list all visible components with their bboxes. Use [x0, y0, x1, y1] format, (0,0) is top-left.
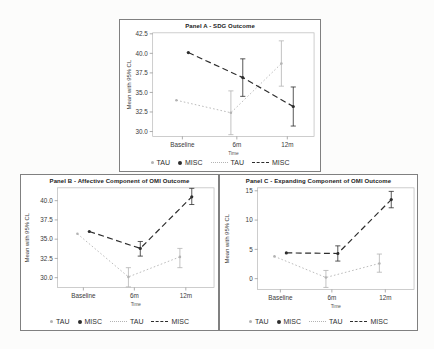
panel-b-legend: TAU MISC TAU MISC [21, 318, 218, 325]
misc-dashed-line-icon [350, 321, 367, 322]
data-point-marker [378, 262, 381, 265]
legend-item-misc-line: MISC [350, 318, 388, 325]
tau-dotted-line-icon [110, 321, 127, 322]
data-point-marker [88, 230, 91, 233]
tau-point-marker-icon [151, 161, 154, 164]
legend-label: MISC [171, 318, 189, 325]
legend-item-misc-line: MISC [151, 318, 189, 325]
y-tick-label: 15 [246, 187, 254, 194]
data-point-marker [230, 111, 233, 114]
legend-item-tau-line: TAU [110, 318, 143, 325]
panel-c-title: Panel C - Expanding Component of OMI Out… [220, 178, 417, 184]
x-axis-title: Time [228, 151, 239, 156]
data-point-marker [175, 99, 178, 102]
legend-label: TAU [56, 318, 69, 325]
y-tick-label: 10 [246, 216, 254, 223]
legend-item-tau-marker: TAU [50, 318, 69, 325]
legend-item-misc-marker: MISC [78, 318, 103, 325]
x-tick-label: 12m [281, 141, 293, 148]
y-axis-title: Mean with 95% CL [126, 59, 132, 109]
panel-b-plot: 30.032.535.037.540.0Baseline6m12mTimeMea… [21, 175, 218, 330]
legend-label: MISC [272, 159, 290, 166]
tau-point-marker-icon [50, 320, 53, 323]
panel-a: 30.032.535.037.540.042.5Baseline6m12mTim… [119, 19, 321, 172]
panel-a-plot: 30.032.535.037.540.042.5Baseline6m12mTim… [120, 20, 320, 171]
y-tick-label: 35.0 [135, 89, 148, 96]
legend-label: TAU [231, 159, 244, 166]
x-tick-label: 12m [379, 294, 391, 301]
x-tick-label: 6m [327, 294, 336, 301]
panel-a-title: Panel A - SDG Outcome [120, 23, 320, 29]
y-tick-label: 0 [249, 275, 253, 282]
legend-label: MISC [370, 318, 388, 325]
data-point-marker [390, 198, 393, 201]
x-axis-title: Time [331, 304, 342, 309]
misc-dashed-line-icon [252, 162, 269, 163]
data-point-marker [179, 256, 182, 259]
tau-dotted-line-icon [309, 321, 326, 322]
legend-item-tau-line: TAU [309, 318, 342, 325]
panel-b-title: Panel B - Affective Component of OMI Out… [21, 178, 218, 184]
panel-c: 051015Baseline6m12mTimeMean with 95% CL … [219, 174, 418, 331]
x-tick-label: 12m [180, 292, 192, 299]
misc-point-marker-icon [178, 161, 182, 165]
figure-page: 30.032.535.037.540.042.5Baseline6m12mTim… [0, 0, 434, 349]
y-tick-label: 42.5 [135, 30, 148, 37]
data-point-marker [325, 276, 328, 279]
data-point-marker [127, 276, 130, 279]
y-tick-label: 32.5 [40, 255, 53, 262]
data-point-marker [292, 105, 295, 108]
y-tick-label: 40.0 [40, 197, 53, 204]
data-point-marker [285, 251, 288, 254]
data-point-marker [139, 247, 142, 250]
legend-label: TAU [130, 318, 143, 325]
y-tick-label: 30.0 [40, 274, 53, 281]
legend-item-tau-marker: TAU [151, 159, 170, 166]
tau-point-marker-icon [249, 320, 252, 323]
y-axis-title: Mean with 95% CL [24, 212, 30, 262]
y-axis-title: Mean with 95% CL [224, 213, 230, 263]
y-tick-label: 40.0 [135, 50, 148, 57]
y-tick-label: 37.5 [40, 216, 53, 223]
y-tick-label: 30.0 [135, 128, 148, 135]
x-tick-label: 6m [232, 141, 241, 148]
misc-point-marker-icon [78, 320, 82, 324]
plot-frame [58, 188, 214, 288]
data-point-marker [336, 252, 339, 255]
legend-item-misc-line: MISC [252, 159, 290, 166]
legend-item-misc-marker: MISC [277, 318, 302, 325]
legend-item-tau-line: TAU [211, 159, 244, 166]
x-tick-label: Baseline [170, 141, 195, 148]
x-axis-title: Time [131, 302, 142, 307]
misc-point-marker-icon [277, 320, 281, 324]
panel-c-plot: 051015Baseline6m12mTimeMean with 95% CL [220, 175, 417, 330]
data-point-marker [273, 255, 276, 258]
legend-label: MISC [85, 318, 103, 325]
y-tick-label: 32.5 [135, 108, 148, 115]
panel-b: 30.032.535.037.540.0Baseline6m12mTimeMea… [20, 174, 219, 331]
tau-dotted-line-icon [211, 162, 228, 163]
legend-item-misc-marker: MISC [178, 159, 203, 166]
data-point-marker [280, 62, 283, 65]
y-tick-label: 35.0 [40, 235, 53, 242]
legend-label: TAU [255, 318, 268, 325]
panel-a-legend: TAU MISC TAU MISC [120, 159, 320, 166]
legend-label: TAU [329, 318, 342, 325]
panel-c-legend: TAU MISC TAU MISC [220, 318, 417, 325]
data-point-marker [190, 195, 193, 198]
x-tick-label: 6m [130, 292, 139, 299]
legend-label: MISC [185, 159, 203, 166]
legend-label: TAU [157, 159, 170, 166]
legend-label: MISC [284, 318, 302, 325]
y-tick-label: 37.5 [135, 69, 148, 76]
plot-frame [153, 33, 314, 137]
data-point-marker [187, 51, 190, 54]
misc-dashed-line-icon [151, 321, 168, 322]
x-tick-label: Baseline [71, 292, 96, 299]
data-point-marker [241, 76, 244, 79]
y-tick-label: 5 [249, 246, 253, 253]
x-tick-label: Baseline [268, 294, 293, 301]
legend-item-tau-marker: TAU [249, 318, 268, 325]
plot-frame [258, 188, 414, 290]
data-point-marker [76, 232, 79, 235]
